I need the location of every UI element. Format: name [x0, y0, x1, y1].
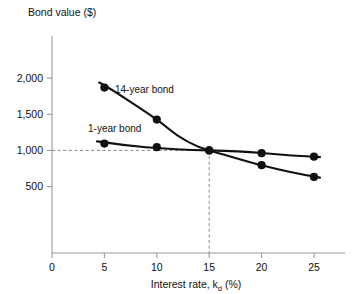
x-tick-label-20: 20: [256, 261, 268, 273]
x-tick-label-5: 5: [101, 261, 107, 273]
x-tick-label-25: 25: [308, 261, 320, 273]
data-point-1yr-20: [258, 149, 266, 157]
data-point-14yr-25: [310, 173, 318, 181]
y-tick-label-2000: 2,000: [17, 72, 43, 84]
chart-background: [0, 0, 353, 294]
series-label-1-year-bond: 1-year bond: [88, 123, 141, 134]
x-axis-title-tail: (%): [222, 278, 241, 290]
bond-value-vs-interest-rate-chart: Bond value ($) 2,000 1,500 1,000 500 0 5…: [0, 0, 353, 294]
data-point-1yr-10: [153, 143, 161, 151]
y-tick-label-500: 500: [25, 180, 43, 192]
x-tick-label-0: 0: [49, 261, 55, 273]
data-point-14yr-10: [153, 116, 161, 124]
x-tick-label-15: 15: [203, 261, 215, 273]
data-point-intersection-15-1000: [205, 146, 214, 155]
y-tick-label-1000: 1,000: [17, 144, 43, 156]
series-label-14-year-bond: 14-year bond: [115, 84, 174, 95]
data-point-14yr-5: [100, 84, 108, 92]
x-tick-label-10: 10: [151, 261, 163, 273]
y-axis-title: Bond value ($): [28, 6, 96, 18]
data-point-1yr-5: [100, 140, 108, 148]
data-point-1yr-25: [310, 153, 318, 161]
chart-canvas: Bond value ($) 2,000 1,500 1,000 500 0 5…: [0, 0, 353, 294]
y-tick-label-1500: 1,500: [17, 108, 43, 120]
data-point-14yr-20: [258, 161, 266, 169]
x-axis-title-main: Interest rate, k: [151, 278, 219, 290]
